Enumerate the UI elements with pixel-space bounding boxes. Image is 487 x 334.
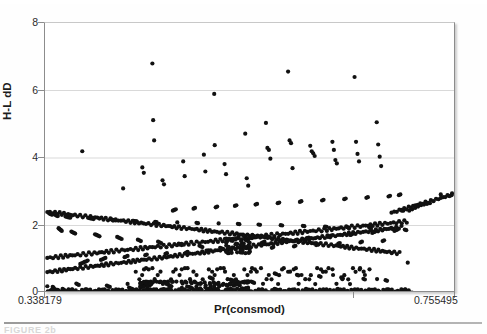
data-point	[399, 287, 403, 291]
data-point	[354, 140, 358, 144]
data-point	[151, 118, 155, 122]
data-point	[202, 153, 206, 157]
data-point	[239, 239, 243, 243]
figure-top-margin	[0, 0, 487, 4]
data-point	[128, 287, 132, 291]
data-point	[249, 270, 253, 274]
y-tick-label-4: 4	[12, 152, 38, 163]
data-point	[289, 141, 293, 145]
data-point	[174, 279, 178, 283]
y-tick-label-2: 2	[12, 220, 38, 231]
data-point	[216, 281, 220, 285]
data-point	[309, 273, 313, 277]
y-tick-label-8: 8	[12, 17, 38, 28]
data-point	[103, 256, 107, 260]
data-point	[340, 277, 344, 281]
data-point	[243, 246, 247, 250]
data-point	[160, 178, 164, 182]
data-point	[145, 252, 149, 256]
data-point	[147, 267, 151, 271]
data-point	[177, 273, 181, 277]
data-point	[264, 121, 268, 125]
data-point	[45, 284, 49, 288]
data-point	[156, 273, 160, 277]
data-point	[152, 138, 156, 142]
data-point	[97, 234, 101, 238]
data-point	[234, 277, 238, 281]
data-point	[213, 273, 217, 277]
data-point	[221, 283, 225, 287]
data-point	[139, 281, 143, 285]
data-point	[215, 267, 219, 271]
data-point	[405, 221, 409, 225]
data-point	[229, 287, 233, 291]
data-point	[290, 166, 294, 170]
data-point	[185, 285, 189, 289]
data-point	[230, 245, 234, 249]
data-point	[282, 266, 286, 270]
data-point	[153, 277, 157, 281]
data-point	[158, 270, 162, 274]
data-point	[321, 198, 325, 202]
data-point	[353, 270, 357, 274]
data-point	[246, 280, 250, 284]
data-point	[355, 152, 359, 156]
data-point	[196, 221, 200, 225]
data-point	[397, 250, 401, 254]
data-point	[242, 267, 246, 271]
data-point	[200, 245, 204, 249]
data-point	[161, 282, 165, 286]
data-point	[308, 144, 312, 148]
data-point	[205, 287, 209, 291]
gridlines-group	[45, 91, 454, 226]
data-point	[212, 92, 216, 96]
data-point	[120, 237, 124, 241]
data-point	[398, 192, 402, 196]
data-point	[396, 289, 400, 291]
data-point	[363, 289, 367, 291]
data-point	[226, 237, 230, 241]
data-point	[224, 243, 228, 247]
data-point	[342, 273, 346, 277]
data-point	[203, 169, 207, 173]
data-point	[77, 283, 81, 287]
data-point	[267, 148, 271, 152]
data-point	[363, 273, 367, 277]
data-point	[293, 244, 297, 248]
data-point	[363, 277, 367, 281]
data-point	[150, 61, 154, 65]
data-point	[297, 282, 301, 286]
data-point	[335, 161, 339, 165]
data-point	[302, 224, 306, 228]
data-point	[162, 182, 166, 186]
figure-caption: FIGURE 2b	[4, 326, 56, 334]
data-point	[239, 248, 243, 252]
data-point	[334, 282, 338, 286]
data-point	[217, 221, 221, 225]
data-point	[237, 282, 241, 286]
data-point	[243, 279, 247, 283]
y-tick-label-6: 6	[12, 85, 38, 96]
data-point	[207, 267, 211, 271]
data-point	[360, 240, 364, 244]
data-point	[330, 140, 334, 144]
data-point	[357, 159, 361, 163]
data-point	[181, 159, 185, 163]
data-point	[246, 184, 250, 188]
data-point	[376, 142, 380, 146]
caption-divider	[4, 322, 482, 324]
data-point	[450, 191, 454, 195]
data-point	[169, 277, 173, 281]
data-point	[167, 287, 171, 291]
data-point	[344, 196, 348, 200]
data-point	[276, 282, 280, 286]
x-axis-title: Pr(consmod)	[44, 304, 455, 316]
data-point	[307, 277, 311, 281]
data-point	[237, 222, 241, 226]
data-point	[318, 275, 322, 279]
data-point	[352, 75, 356, 79]
data-point	[280, 223, 284, 227]
data-point	[148, 281, 152, 285]
data-point	[379, 164, 383, 168]
data-point	[183, 174, 187, 178]
